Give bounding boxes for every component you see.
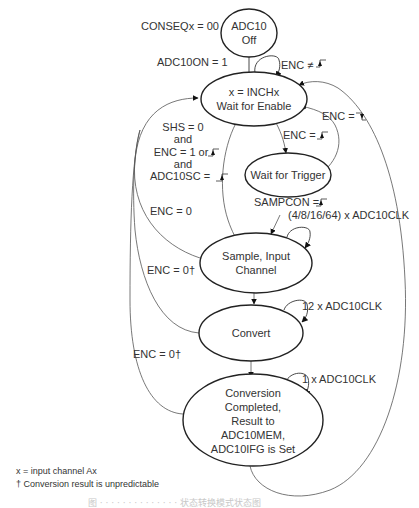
svg-text:Conversion: Conversion bbox=[225, 387, 281, 399]
svg-text:ADC10IFG is Set: ADC10IFG is Set bbox=[211, 443, 295, 455]
label-enc-rise: ENC = bbox=[283, 129, 316, 141]
svg-text:ADC10MEM,: ADC10MEM, bbox=[221, 429, 285, 441]
svg-text:and: and bbox=[174, 158, 192, 170]
state-wait-for-enable: x = INCHx Wait for Enable bbox=[201, 72, 307, 126]
state-sample-input-channel: Sample, Input Channel bbox=[200, 233, 312, 293]
rising-edge-icon bbox=[216, 174, 228, 181]
label-sample-clk: (4/8/16/64) x ADC10CLK bbox=[288, 209, 410, 221]
footnote-dagger: † Conversion result is unpredictable bbox=[16, 479, 159, 489]
svg-text:Convert: Convert bbox=[232, 327, 271, 339]
rising-edge-icon bbox=[317, 132, 328, 139]
svg-text:Wait for Enable: Wait for Enable bbox=[217, 100, 292, 112]
label-enc0-b: ENC = 0† bbox=[147, 264, 195, 276]
label-enc-not-rise: ENC ≠ bbox=[281, 59, 313, 71]
label-enc-fall: ENC = bbox=[322, 110, 355, 122]
state-adc10-off: ADC10 Off bbox=[221, 9, 277, 57]
svg-text:ADC10: ADC10 bbox=[231, 20, 266, 32]
svg-text:Sample, Input: Sample, Input bbox=[222, 250, 290, 262]
label-convert-clk: 12 x ADC10CLK bbox=[302, 300, 383, 312]
label-conseq: CONSEQx = 00 bbox=[141, 20, 219, 32]
svg-text:ADC10SC =: ADC10SC = bbox=[150, 170, 210, 182]
footnotes: x = input channel Ax † Conversion result… bbox=[16, 466, 159, 489]
state-wait-for-trigger: Wait for Trigger bbox=[245, 153, 331, 197]
rising-edge-icon bbox=[316, 60, 326, 67]
label-adc10on: ADC10ON = 1 bbox=[157, 56, 228, 68]
label-sampcon: SAMPCON = bbox=[254, 196, 319, 208]
svg-text:Completed,: Completed, bbox=[225, 401, 281, 413]
state-diagram: ADC10 Off x = INCHx Wait for Enable Wait… bbox=[0, 0, 419, 508]
footnote-x: x = input channel Ax bbox=[16, 466, 97, 476]
label-enc0-c: ENC = 0† bbox=[133, 348, 181, 360]
figure-caption: 图 · · · · · · · · · · · · · · 状态转换模式状态图 bbox=[88, 497, 261, 508]
svg-text:Wait for Trigger: Wait for Trigger bbox=[251, 169, 326, 181]
state-conversion-completed: Conversion Completed, Result to ADC10MEM… bbox=[183, 374, 323, 466]
rising-edge-icon bbox=[208, 149, 219, 156]
svg-text:ENC = 1 or: ENC = 1 or bbox=[154, 146, 209, 158]
svg-text:Off: Off bbox=[242, 34, 257, 46]
label-shs: SHS = 0 bbox=[162, 121, 203, 133]
svg-text:Result to: Result to bbox=[231, 415, 274, 427]
label-complete-clk: 1 x ADC10CLK bbox=[302, 373, 377, 385]
label-enc0-a: ENC = 0 bbox=[150, 205, 192, 217]
svg-text:and: and bbox=[174, 133, 192, 145]
svg-text:Channel: Channel bbox=[236, 264, 277, 276]
state-convert: Convert bbox=[199, 305, 303, 361]
svg-text:x = INCHx: x = INCHx bbox=[229, 86, 280, 98]
